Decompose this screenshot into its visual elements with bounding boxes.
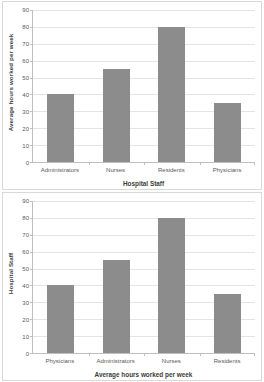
y-tick-label: 50 bbox=[22, 75, 29, 81]
x-category-label: Administrators bbox=[88, 356, 144, 367]
y-tick-label: 30 bbox=[22, 300, 29, 306]
bar-physicians bbox=[214, 103, 241, 162]
chart-bottom: Hospital Staff 9080706050403020100 Physi… bbox=[3, 193, 261, 380]
y-tick-label: 60 bbox=[22, 58, 29, 64]
x-axis-labels-bottom: PhysiciansAdministratorsNursesResidents bbox=[32, 356, 255, 367]
x-category-label: Nurses bbox=[88, 165, 144, 176]
bar-slot bbox=[144, 201, 200, 353]
bar-slot bbox=[33, 201, 89, 353]
chart-panel-top: Average hours worked per week 9080706050… bbox=[2, 1, 262, 190]
bar-series-top bbox=[33, 10, 255, 162]
y-tick-label: 30 bbox=[22, 109, 29, 115]
y-tick-label: 70 bbox=[22, 232, 29, 238]
y-axis-title-bottom-label: Hospital Staff bbox=[7, 253, 14, 294]
bar-residents bbox=[214, 294, 241, 353]
y-tick-label: 80 bbox=[22, 24, 29, 30]
y-tick-label: 80 bbox=[22, 215, 29, 221]
x-category-label: Physicians bbox=[32, 356, 88, 367]
y-axis-ticks-top: 9080706050403020100 bbox=[16, 10, 31, 163]
x-category-label: Nurses bbox=[144, 356, 200, 367]
bar-administrators bbox=[103, 260, 130, 353]
x-category-label: Residents bbox=[144, 165, 200, 176]
bar-administrators bbox=[47, 94, 74, 162]
bar-slot bbox=[144, 10, 200, 162]
y-tick-label: 20 bbox=[22, 126, 29, 132]
bar-physicians bbox=[47, 285, 74, 353]
bar-slot bbox=[89, 201, 145, 353]
y-tick-label: 10 bbox=[22, 334, 29, 340]
bar-slot bbox=[200, 201, 256, 353]
y-tick-label: 90 bbox=[22, 198, 29, 204]
y-tick-label: 40 bbox=[22, 92, 29, 98]
y-tick-label: 90 bbox=[22, 7, 29, 13]
bar-residents bbox=[158, 27, 185, 162]
bar-nurses bbox=[103, 69, 130, 162]
plot-area-top bbox=[32, 10, 255, 163]
y-tick-label: 40 bbox=[22, 283, 29, 289]
x-category-label: Administrators bbox=[32, 165, 88, 176]
y-tick-label: 0 bbox=[26, 160, 29, 166]
bar-series-bottom bbox=[33, 201, 255, 353]
y-axis-title-top-label: Average hours worked per week bbox=[7, 34, 14, 132]
y-tick-label: 70 bbox=[22, 41, 29, 47]
y-axis-ticks-bottom: 9080706050403020100 bbox=[16, 201, 31, 354]
x-category-label: Physicians bbox=[199, 165, 255, 176]
bar-slot bbox=[89, 10, 145, 162]
y-tick-label: 60 bbox=[22, 249, 29, 255]
chart-panel-bottom: Hospital Staff 9080706050403020100 Physi… bbox=[2, 192, 262, 381]
y-tick-label: 0 bbox=[26, 351, 29, 357]
bar-slot bbox=[33, 10, 89, 162]
bar-slot bbox=[200, 10, 256, 162]
y-tick-label: 10 bbox=[22, 143, 29, 149]
x-axis-labels-top: AdministratorsNursesResidentsPhysicians bbox=[32, 165, 255, 176]
y-tick-label: 20 bbox=[22, 317, 29, 323]
x-category-label: Residents bbox=[199, 356, 255, 367]
chart-top: Average hours worked per week 9080706050… bbox=[3, 2, 261, 189]
x-axis-title-top: Hospital Staff bbox=[32, 180, 255, 187]
bar-nurses bbox=[158, 218, 185, 353]
y-tick-label: 50 bbox=[22, 266, 29, 272]
x-axis-title-bottom: Average hours worked per week bbox=[32, 371, 255, 378]
chart-sheet: Average hours worked per week 9080706050… bbox=[0, 0, 264, 382]
plot-area-bottom bbox=[32, 201, 255, 354]
